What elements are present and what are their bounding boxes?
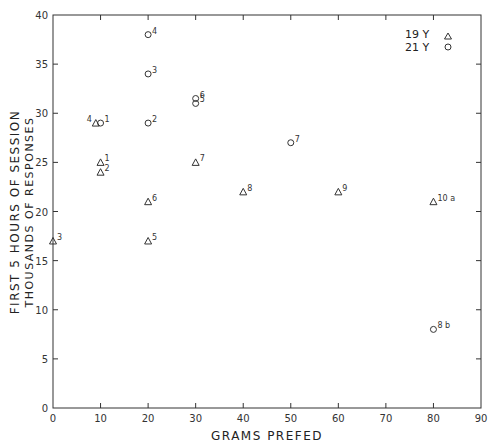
y-axis-title-line2: THOUSANDS OF RESPONSES [23,116,36,308]
circle-marker-icon [445,44,451,50]
circle-marker-icon [145,120,151,126]
triangle-marker-icon [97,169,104,176]
x-tick-label: 10 [94,413,107,424]
point-label: 1 [105,115,110,124]
plot-frame [53,15,481,408]
x-axis: 0102030405060708090 [50,15,488,424]
triangle-marker-icon [430,198,437,205]
x-tick-label: 40 [237,413,250,424]
triangle-marker-icon [335,188,342,195]
x-tick-label: 30 [189,413,202,424]
scatter-chart: 0102030405060708090 0510152025303540 341… [0,0,492,447]
circle-marker-icon [145,32,151,38]
x-tick-label: 0 [50,413,56,424]
point-label: 10 a [437,194,455,203]
triangle-marker-icon [145,198,152,205]
circle-marker-icon [145,71,151,77]
y-tick-label: 40 [35,10,48,21]
legend-label-21y: 21 Y [405,41,429,54]
point-label: 5 [200,95,205,104]
point-label: 2 [152,115,157,124]
x-tick-label: 60 [332,413,345,424]
point-label: 8 b [437,321,450,330]
point-label: 4 [152,27,157,36]
circle-marker-icon [430,326,436,332]
x-tick-label: 50 [284,413,297,424]
point-label: 3 [57,233,62,242]
legend-label-19y: 19 Y [405,28,429,41]
triangle-marker-icon [145,237,152,244]
y-tick-label: 15 [35,256,48,267]
triangle-marker-icon [445,33,452,39]
circle-marker-icon [98,120,104,126]
y-tick-label: 20 [35,207,48,218]
y-axis-title-line1: FIRST 5 HOURS OF SESSION [8,110,22,315]
circle-marker-icon [288,140,294,146]
y-tick-label: 0 [42,403,48,414]
x-axis-title: GRAMS PREFED [211,429,323,443]
y-tick-label: 30 [35,108,48,119]
legend: 19 Y 21 Y [405,28,452,54]
data-points: 34126578910 a14326578 b [50,27,456,333]
x-tick-label: 80 [427,413,440,424]
y-tick-label: 35 [35,59,48,70]
point-label: 2 [105,164,110,173]
y-tick-label: 5 [42,354,48,365]
y-tick-label: 10 [35,305,48,316]
triangle-marker-icon [192,159,199,166]
point-label: 1 [105,154,110,163]
point-label: 5 [152,233,157,242]
y-tick-label: 25 [35,157,48,168]
triangle-marker-icon [97,159,104,166]
point-label: 3 [152,66,157,75]
point-label: 4 [87,115,92,124]
point-label: 8 [247,184,252,193]
point-label: 7 [295,135,300,144]
x-tick-label: 70 [380,413,393,424]
point-label: 6 [152,194,157,203]
y-axis: 0510152025303540 [35,10,481,414]
x-tick-label: 90 [475,413,488,424]
x-tick-label: 20 [142,413,155,424]
point-label: 7 [200,154,205,163]
triangle-marker-icon [240,188,247,195]
point-label: 9 [342,184,347,193]
